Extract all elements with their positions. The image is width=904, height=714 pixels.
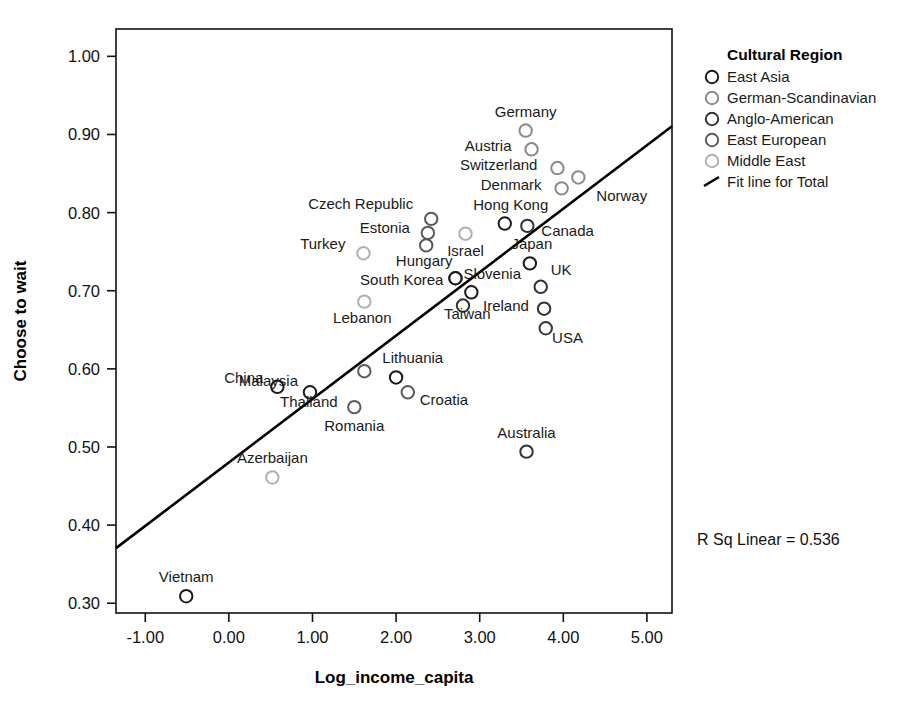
data-point-label: UK	[551, 261, 572, 278]
legend-entry-label: East Asia	[727, 68, 790, 85]
data-point-label: Hungary	[396, 252, 453, 269]
y-tick-label: 0.60	[68, 360, 100, 378]
scatter-plot-svg: 0.300.400.500.600.700.800.901.00-1.000.0…	[0, 0, 904, 714]
x-tick-label: 1.00	[296, 628, 328, 646]
legend-entry-label: East European	[727, 131, 826, 148]
legend-marker-4	[706, 134, 718, 146]
legend-marker-3	[706, 113, 718, 125]
data-point-marker	[425, 213, 437, 225]
legend-entry-label: Middle East	[727, 152, 806, 169]
data-point-marker	[422, 227, 434, 239]
y-axis-title: Choose to wait	[11, 260, 30, 381]
data-point-marker	[555, 182, 567, 194]
fit-line-total	[116, 126, 672, 548]
x-tick-label: 0.00	[213, 628, 245, 646]
data-point-label: Germany	[495, 103, 557, 120]
x-tick-label: 5.00	[631, 628, 663, 646]
data-point-label: Slovenia	[463, 265, 521, 282]
data-point-marker	[358, 365, 370, 377]
data-point-marker	[420, 239, 432, 251]
data-point-label: Vietnam	[159, 568, 214, 585]
legend-line-marker	[704, 177, 719, 186]
legend-title: Cultural Region	[727, 46, 842, 63]
x-tick-label: 2.00	[380, 628, 412, 646]
data-point-label: Czech Republic	[308, 195, 414, 212]
scatter-chart-root: 0.300.400.500.600.700.800.901.00-1.000.0…	[0, 0, 904, 714]
legend-marker-5	[706, 155, 718, 167]
x-tick-label: 3.00	[464, 628, 496, 646]
data-point-label: Israel	[447, 242, 484, 259]
data-point-marker	[535, 281, 547, 293]
data-point-marker	[572, 171, 584, 183]
x-tick-label: -1.00	[126, 628, 164, 646]
x-tick-label: 4.00	[547, 628, 579, 646]
data-point-marker	[465, 286, 477, 298]
point-labels: GermanyAustriaSwitzerlandNorwayDenmarkCz…	[159, 103, 648, 586]
data-point-marker	[357, 247, 369, 259]
data-point-label: Turkey	[300, 235, 346, 252]
data-point-label: Lebanon	[333, 309, 391, 326]
data-point-label: Thailand	[280, 393, 338, 410]
legend-marker-2	[706, 92, 718, 104]
data-point-marker	[358, 295, 370, 307]
data-point-marker	[266, 471, 278, 483]
y-tick-label: 0.50	[68, 438, 100, 456]
y-tick-label: 0.30	[68, 594, 100, 612]
r-squared-annotation: R Sq Linear = 0.536	[697, 531, 840, 548]
data-point-label: Australia	[497, 424, 556, 441]
data-point-marker	[390, 371, 402, 383]
data-point-label: Croatia	[420, 391, 469, 408]
data-point-marker	[180, 590, 192, 602]
y-tick-label: 0.80	[68, 204, 100, 222]
data-point-marker	[525, 143, 537, 155]
y-tick-label: 1.00	[68, 47, 100, 65]
data-point-marker	[540, 322, 552, 334]
data-point-label: Lithuania	[382, 349, 444, 366]
data-point-label: Austria	[465, 137, 512, 154]
x-axis-title: Log_income_capita	[315, 668, 474, 687]
data-point-marker	[499, 217, 511, 229]
fit-line	[116, 126, 672, 548]
y-tick-label: 0.40	[68, 516, 100, 534]
legend-entry-label: Fit line for Total	[727, 173, 828, 190]
data-point-marker	[521, 220, 533, 232]
data-point-label: China	[224, 369, 264, 386]
data-point-label: Ireland	[483, 297, 529, 314]
data-point-marker	[348, 401, 360, 413]
data-point-label: Japan	[511, 235, 552, 252]
legend-entry-label: German-Scandinavian	[727, 89, 876, 106]
data-point-marker	[551, 162, 563, 174]
data-point-label: Switzerland	[460, 156, 538, 173]
data-point-label: USA	[552, 329, 583, 346]
chart-legend: Cultural RegionEast AsiaGerman-Scandinav…	[704, 46, 876, 190]
data-point-label: Norway	[596, 187, 647, 204]
rsq-annotation: R Sq Linear = 0.536	[697, 531, 840, 548]
data-point-marker	[459, 227, 471, 239]
data-point-marker	[402, 386, 414, 398]
data-point-label: Hong Kong	[473, 196, 548, 213]
data-point-marker	[449, 272, 461, 284]
data-point-marker	[519, 124, 531, 136]
legend-entry-label: Anglo-American	[727, 110, 834, 127]
axis-titles: Log_income_capitaChoose to wait	[11, 260, 474, 687]
data-point-label: Denmark	[481, 176, 542, 193]
plot-frame	[116, 29, 672, 613]
data-point-marker	[538, 302, 550, 314]
axis-ticks: 0.300.400.500.600.700.800.901.00-1.000.0…	[68, 47, 663, 646]
y-tick-label: 0.70	[68, 282, 100, 300]
data-point-marker	[520, 445, 532, 457]
data-point-label: Azerbaijan	[237, 449, 308, 466]
data-point-label: Estonia	[360, 219, 411, 236]
legend-marker-1	[706, 71, 718, 83]
y-tick-label: 0.90	[68, 125, 100, 143]
data-point-label: Romania	[324, 417, 385, 434]
plot-border	[116, 29, 672, 613]
data-point-label: South Korea	[360, 271, 444, 288]
data-point-marker	[524, 257, 536, 269]
